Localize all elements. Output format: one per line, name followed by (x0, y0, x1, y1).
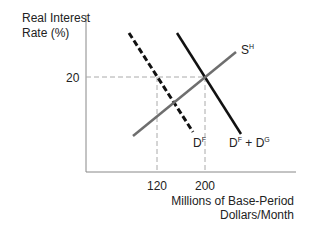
y-axis-label-line2: Rate (%) (22, 26, 69, 40)
x-axis-label-line1: Millions of Base-Period (171, 194, 294, 208)
supply-label: SH (241, 43, 254, 57)
x-axis-label-line2: Dollars/Month (220, 208, 294, 222)
foreign-demand-label: DF (193, 136, 206, 150)
total-demand-label: DF + DG (229, 136, 270, 150)
y-axis-label-line1: Real Interest (22, 11, 91, 25)
loanable-funds-diagram: Real Interest Rate (%) 20 120 200 Millio… (0, 0, 309, 230)
y-tick-20: 20 (66, 71, 80, 85)
x-tick-120: 120 (147, 179, 167, 193)
foreign-demand-curve (129, 33, 193, 132)
total-demand-curve (177, 33, 241, 134)
x-tick-200: 200 (195, 179, 215, 193)
